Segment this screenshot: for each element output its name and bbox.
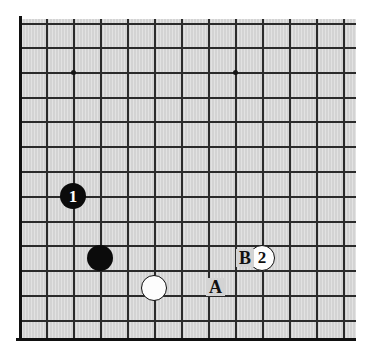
star-point-right-icon	[233, 70, 238, 75]
grid-line-vertical	[316, 19, 318, 341]
grid-line-vertical	[181, 19, 183, 341]
stone-move-number: 1	[69, 187, 78, 204]
grid-line-horizontal	[19, 72, 356, 74]
grid-line-horizontal	[19, 295, 356, 297]
black-stone-plain[interactable]	[87, 245, 113, 271]
point-marker-a: A	[206, 278, 225, 296]
star-point-left-icon	[71, 70, 76, 75]
board-edge-left	[19, 16, 22, 341]
grid-line-horizontal	[19, 320, 356, 322]
grid-line-horizontal	[19, 270, 356, 272]
grid-line-horizontal	[19, 47, 356, 49]
grid-line-horizontal	[19, 171, 356, 173]
point-marker-b: B	[236, 249, 254, 267]
go-board-diagram: 12 AB	[0, 0, 373, 361]
grid-line-vertical	[289, 19, 291, 341]
grid-line-horizontal	[19, 23, 356, 25]
grid-line-vertical	[262, 19, 264, 341]
grid-line-vertical	[343, 19, 345, 341]
black-stone-1[interactable]: 1	[60, 183, 86, 209]
board-texture	[19, 19, 356, 341]
grid-line-horizontal	[19, 97, 356, 99]
grid-line-horizontal	[19, 146, 356, 148]
go-board[interactable]: 12 AB	[19, 19, 356, 341]
grid-line-vertical	[235, 19, 237, 341]
grid-line-vertical	[127, 19, 129, 341]
stone-move-number: 2	[258, 249, 267, 266]
white-stone-plain[interactable]	[141, 275, 167, 301]
grid-line-vertical	[46, 19, 48, 341]
grid-line-vertical	[73, 19, 75, 341]
grid-line-horizontal	[19, 221, 356, 223]
grid-line-vertical	[100, 19, 102, 341]
grid-line-horizontal	[19, 121, 356, 123]
grid-line-horizontal	[19, 245, 356, 247]
board-edge-bottom	[16, 338, 356, 341]
